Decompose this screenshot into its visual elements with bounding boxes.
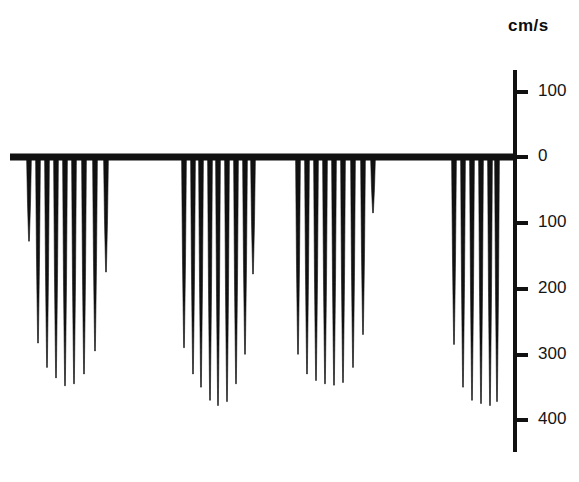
axis-unit-label: cm/s bbox=[508, 16, 549, 36]
doppler-trace-plot bbox=[0, 0, 579, 482]
axis-tick-label-0: 0 bbox=[538, 146, 547, 166]
axis-tick-label-100-negative: 100 bbox=[538, 212, 566, 232]
axis-tick-label-100-positive: 100 bbox=[538, 81, 566, 101]
plot-background bbox=[0, 0, 579, 482]
figure-canvas: cm/s 100 0 100 200 300 400 bbox=[0, 0, 579, 482]
axis-tick-label-300-negative: 300 bbox=[538, 344, 566, 364]
axis-tick-label-200-negative: 200 bbox=[538, 278, 566, 298]
axis-tick-label-400-negative: 400 bbox=[538, 409, 566, 429]
